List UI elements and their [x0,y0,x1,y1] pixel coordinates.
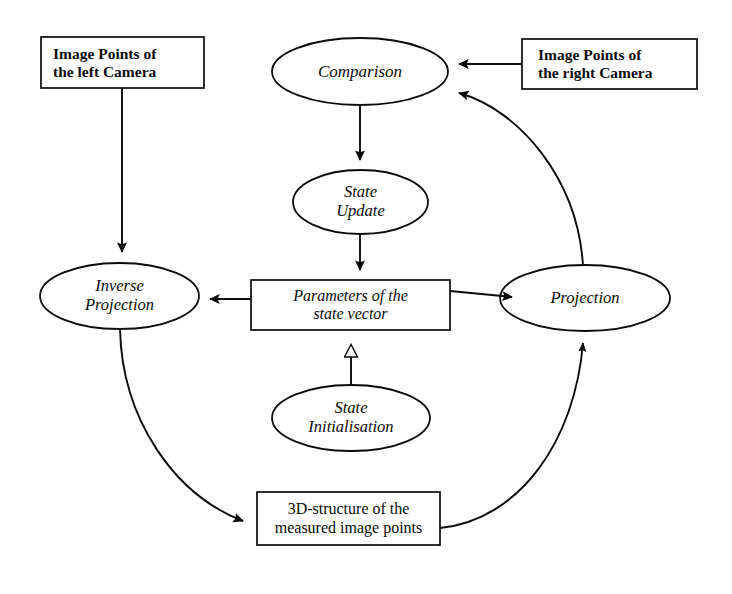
node-shape-parameters-of-the-state-vector[interactable] [251,280,450,330]
diagram-vector-layer [0,0,732,594]
node-shape-comparison[interactable] [272,38,448,105]
edge-3d-structure-to-projection[interactable] [440,343,583,528]
node-shape-state-update[interactable] [293,170,428,234]
node-shape-inverse-projection[interactable] [40,263,199,329]
node-shape-state-initialisation[interactable] [272,385,430,451]
node-shape-projection[interactable] [500,265,670,331]
edge-projection-to-comparison[interactable] [459,93,583,266]
node-shape-3d-structure-of-measured-image-points[interactable] [257,492,440,545]
node-shapes [40,37,697,545]
node-shape-image-points-right-camera[interactable] [522,39,697,89]
diagram-canvas: Image Points of the left Camera Image Po… [0,0,732,594]
edge-inverse-projection-to-3d-structure[interactable] [120,329,243,521]
node-shape-image-points-left-camera[interactable] [41,37,204,88]
